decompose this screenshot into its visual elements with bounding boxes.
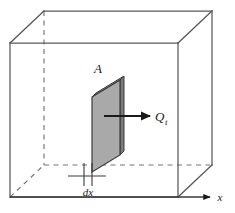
box-edge-top-left-diag — [10, 11, 44, 43]
hidden-edge-bottom-left-diagonal — [10, 165, 44, 197]
box-edge-bottom-right-diag — [178, 165, 212, 197]
slab-front-face — [92, 80, 120, 172]
figure-container: A Qt dx x — [0, 0, 235, 213]
label-heat-flow-symbol: Q — [155, 109, 165, 124]
label-heat-flow-subscript: t — [165, 117, 168, 127]
slab-group — [92, 76, 124, 172]
diagram-canvas: A Qt dx x — [0, 0, 235, 213]
label-thickness-dx: dx — [83, 186, 94, 198]
box-edge-top-right-diag — [178, 11, 212, 43]
label-axis-x: x — [217, 191, 223, 203]
label-heat-flow-Q: Qt — [155, 109, 168, 127]
label-area-A: A — [93, 61, 102, 76]
